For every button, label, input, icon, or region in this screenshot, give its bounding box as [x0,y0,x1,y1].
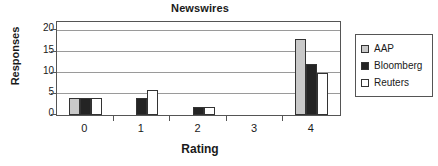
bar-group [295,22,328,115]
x-tick-label: 2 [178,122,218,134]
bar [306,64,317,115]
x-tick-mark [226,116,227,121]
chart-title: Newswires [55,2,345,14]
x-tick-mark [169,116,170,121]
chart-legend: AAPBloombergReuters [355,34,433,97]
y-tick-mark [51,93,56,94]
bar-group [69,22,102,115]
bar [147,90,158,115]
bar [204,107,215,115]
plot-area [56,21,341,116]
x-tick-mark [282,116,283,121]
legend-item[interactable]: Bloomberg [361,57,428,74]
y-tick-mark [51,72,56,73]
legend-item[interactable]: Reuters [361,74,428,91]
bar-group [125,22,158,115]
bar-group [182,22,215,115]
legend-item[interactable]: AAP [361,40,428,57]
x-tick-label: 3 [234,122,274,134]
bar [317,73,328,115]
bar [69,98,80,115]
x-axis-title: Rating [55,142,345,156]
bar-series-container [57,22,340,115]
y-tick-mark [51,114,56,115]
y-tick-mark [51,29,56,30]
x-tick-mark [113,116,114,121]
bar [193,107,204,115]
bar [91,98,102,115]
x-tick-label: 4 [291,122,331,134]
legend-swatch-icon [361,45,369,53]
chart-figure: Newswires Responses Rating AAPBloombergR… [0,0,438,166]
bar-group [239,22,272,115]
legend-label: Bloomberg [374,60,422,71]
y-tick-label: 15 [20,44,54,55]
bar [80,98,91,115]
y-tick-label: 0 [20,107,54,118]
legend-swatch-icon [361,79,369,87]
y-tick-label: 20 [20,22,54,33]
bar [295,39,306,115]
y-tick-label: 10 [20,65,54,76]
y-tick-mark [51,51,56,52]
x-tick-label: 0 [64,122,104,134]
bar [136,98,147,115]
legend-swatch-icon [361,62,369,70]
y-tick-label: 5 [20,86,54,97]
legend-label: Reuters [374,77,409,88]
x-tick-label: 1 [121,122,161,134]
legend-label: AAP [374,43,394,54]
